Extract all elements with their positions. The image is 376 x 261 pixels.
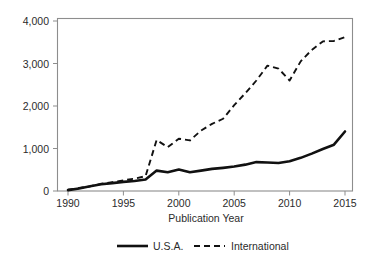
chart-legend: U.S.A. International <box>117 240 289 252</box>
chart-figure: 0 1,000 2,000 3,000 4,000 1990 1995 2000… <box>0 0 376 261</box>
line-chart: 0 1,000 2,000 3,000 4,000 1990 1995 2000… <box>0 0 376 261</box>
plot-frame <box>58 19 353 192</box>
legend-label-international: International <box>231 240 289 252</box>
x-tick-label-1990: 1990 <box>56 197 80 209</box>
legend-label-usa: U.S.A. <box>153 240 183 252</box>
series-line-international <box>68 37 345 190</box>
y-tick-label-4000: 4,000 <box>23 15 49 27</box>
x-axis-title: Publication Year <box>168 212 244 224</box>
y-tick-label-1000: 1,000 <box>23 143 49 155</box>
y-axis-ticks <box>53 21 58 191</box>
series-line-usa <box>68 132 345 191</box>
y-tick-label-0: 0 <box>43 185 49 197</box>
x-axis-ticks <box>68 191 345 196</box>
x-tick-label-2005: 2005 <box>223 197 247 209</box>
y-tick-label-2000: 2,000 <box>23 100 49 112</box>
x-tick-label-1995: 1995 <box>112 197 136 209</box>
x-tick-label-2000: 2000 <box>167 197 191 209</box>
y-axis-tick-labels: 0 1,000 2,000 3,000 4,000 <box>23 15 49 197</box>
y-tick-label-3000: 3,000 <box>23 58 49 70</box>
x-axis-tick-labels: 1990 1995 2000 2005 2010 2015 <box>56 197 357 209</box>
x-tick-label-2015: 2015 <box>333 197 357 209</box>
x-tick-label-2010: 2010 <box>278 197 302 209</box>
